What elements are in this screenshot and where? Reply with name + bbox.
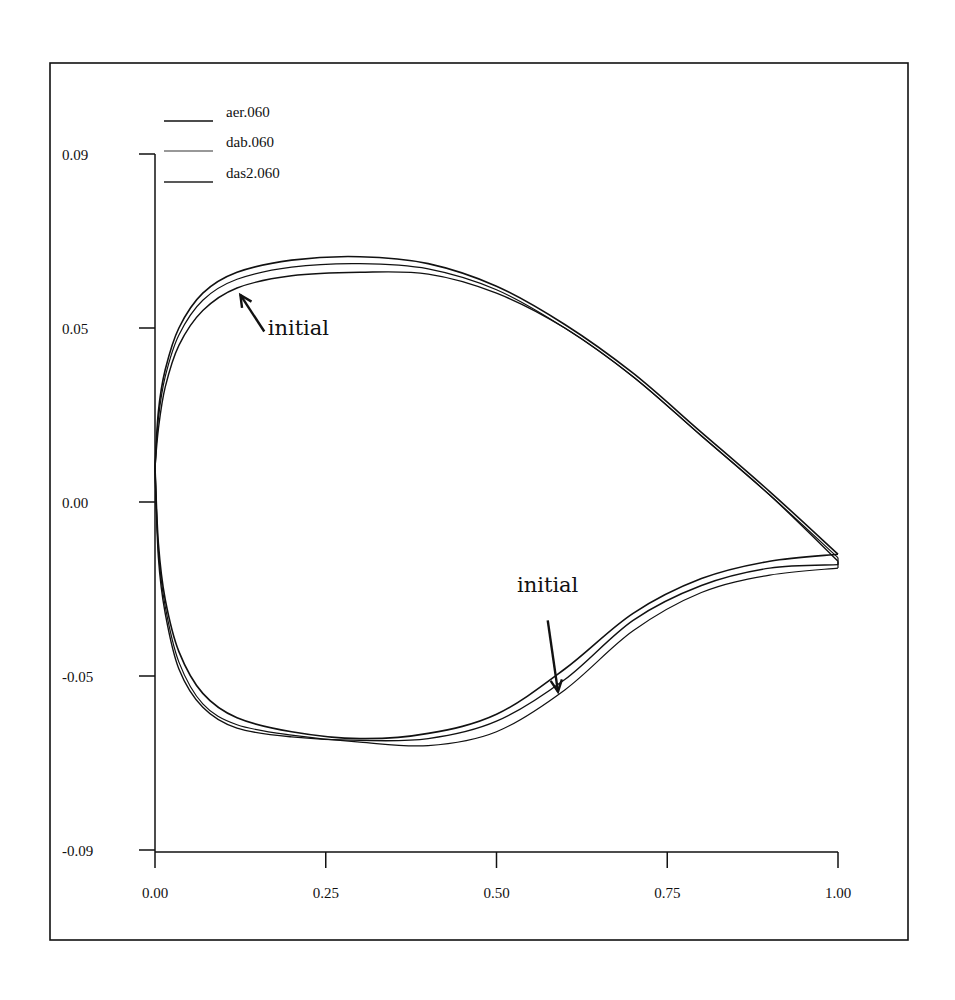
- curve-lower-dab-060: [155, 467, 838, 746]
- legend-label-dab: dab.060: [226, 134, 274, 150]
- legend-label-das2: das2.060: [226, 165, 280, 181]
- y-tick-label: 0.05: [62, 321, 88, 337]
- annotation-label: initial: [517, 573, 579, 597]
- x-tick-label: 0.75: [654, 885, 680, 901]
- airfoil-chart: 0.000.250.500.751.00 0.090.050.00-0.05-0…: [0, 0, 955, 1000]
- x-tick-label: 0.50: [483, 885, 509, 901]
- annotation-label: initial: [268, 316, 330, 340]
- curve-upper-aer-060: [155, 257, 838, 555]
- annotation-arrow: [240, 295, 264, 332]
- x-tick-label: 0.25: [313, 885, 339, 901]
- x-tick-label: 0.00: [142, 885, 168, 901]
- x-tick-label: 1.00: [825, 885, 851, 901]
- legend-label-aer: aer.060: [226, 104, 270, 120]
- airfoil-curves: [155, 257, 838, 747]
- x-ticks: 0.000.250.500.751.00: [142, 852, 851, 901]
- curve-upper-dab-060: [155, 264, 838, 558]
- y-tick-label: 0.00: [62, 495, 88, 511]
- curve-lower-aer-060: [155, 467, 838, 738]
- y-tick-label: 0.09: [62, 147, 88, 163]
- y-tick-label: -0.09: [62, 843, 93, 859]
- curve-upper-das2-060: [155, 272, 838, 561]
- y-ticks: 0.090.050.00-0.05-0.09: [62, 147, 155, 859]
- y-tick-label: -0.05: [62, 669, 93, 685]
- annotations: initialinitial: [240, 295, 578, 692]
- outer-frame: [50, 63, 908, 940]
- curve-lower-das2-060: [155, 467, 838, 741]
- legend: aer.060 dab.060 das2.060: [164, 104, 280, 182]
- axes: [155, 154, 838, 852]
